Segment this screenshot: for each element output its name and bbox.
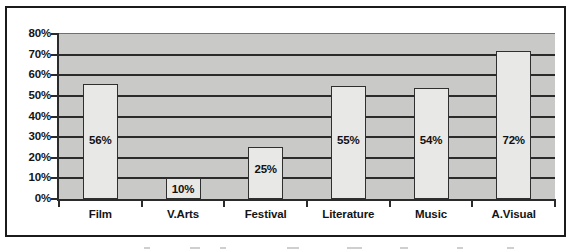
y-tick-60: [51, 74, 58, 76]
category-label-v-arts: V.Arts: [142, 209, 225, 221]
y-tick-20: [51, 157, 58, 159]
gridline-30: [59, 136, 555, 138]
gridline-40: [59, 116, 555, 118]
x-tick-4: [389, 201, 391, 207]
y-axis-label-30: 30%: [9, 131, 51, 143]
gridline-20: [59, 157, 555, 159]
bar-value-v-arts: 10%: [166, 184, 201, 196]
y-tick-80: [51, 33, 58, 35]
y-axis-label-0: 0%: [9, 193, 51, 205]
bar-value-a-visual: 72%: [496, 135, 531, 147]
scan-speck-1: [190, 247, 199, 249]
category-label-film: Film: [59, 209, 142, 221]
x-tick-5: [471, 201, 473, 207]
category-label-festival: Festival: [224, 209, 307, 221]
x-tick-3: [306, 201, 308, 207]
scan-speck-0: [144, 247, 151, 249]
y-tick-10: [51, 177, 58, 179]
bar-value-festival: 25%: [248, 164, 283, 176]
category-label-literature: Literature: [307, 209, 390, 221]
y-tick-50: [51, 95, 58, 97]
y-axis-label-70: 70%: [9, 49, 51, 61]
y-tick-0: [51, 198, 58, 200]
bar-value-film: 56%: [83, 135, 118, 147]
y-axis-label-60: 60%: [9, 69, 51, 81]
gridline-10: [59, 177, 555, 179]
y-tick-30: [51, 136, 58, 138]
y-tick-40: [51, 116, 58, 118]
y-axis-labels: 80%70%60%50%40%30%20%10%0%: [7, 8, 51, 239]
bar-value-music: 54%: [414, 135, 449, 147]
chart-frame: 80%70%60%50%40%30%20%10%0% 56%Film10%V.A…: [5, 6, 566, 237]
x-tick-1: [141, 201, 143, 207]
scan-speck-2: [220, 247, 225, 249]
x-tick-6: [554, 201, 556, 207]
scan-artifact: [0, 246, 574, 250]
y-axis-label-20: 20%: [9, 152, 51, 164]
scan-speck-3: [287, 247, 299, 249]
y-axis-label-80: 80%: [9, 28, 51, 40]
bar-a-visual[interactable]: [496, 51, 531, 200]
gridline-80: [59, 33, 555, 34]
gridline-70: [59, 54, 555, 56]
x-tick-2: [223, 201, 225, 207]
scan-speck-7: [507, 247, 514, 249]
scan-speck-6: [457, 247, 463, 249]
x-tick-0: [58, 201, 60, 207]
category-label-music: Music: [390, 209, 473, 221]
y-axis-label-40: 40%: [9, 111, 51, 123]
bar-chart: 80%70%60%50%40%30%20%10%0% 56%Film10%V.A…: [7, 8, 568, 239]
bar-value-literature: 55%: [331, 135, 366, 147]
plot-area: [59, 34, 555, 199]
gridline-50: [59, 95, 555, 97]
y-tick-70: [51, 54, 58, 56]
chart-figure: 80%70%60%50%40%30%20%10%0% 56%Film10%V.A…: [0, 0, 574, 250]
y-axis-label-50: 50%: [9, 90, 51, 102]
gridline-60: [59, 74, 555, 76]
y-axis-label-10: 10%: [9, 172, 51, 184]
scan-speck-4: [347, 247, 362, 249]
scan-speck-5: [400, 247, 408, 249]
category-label-a-visual: A.Visual: [472, 209, 555, 221]
